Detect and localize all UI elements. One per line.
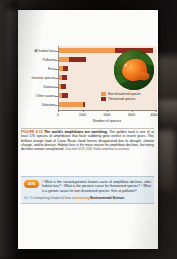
data-badge-label: DATA — [28, 183, 36, 186]
legend-swatch-non-threatened — [101, 92, 106, 96]
bar-segment-threatened — [69, 57, 86, 62]
question-bullet-icon: • — [141, 184, 142, 188]
x-tick-0 — [58, 110, 59, 112]
x-tick-3000 — [132, 110, 133, 112]
golden-toad-photo — [114, 50, 154, 90]
category-label-invasive-species: Invasive species — [32, 74, 55, 82]
goto-lead-label: Go To — [24, 196, 33, 200]
goto-text: Interpreting Graphs & Data on — [34, 196, 75, 200]
chart-plot-area: Non-threatened species Threatened specie… — [58, 46, 157, 110]
category-label-other-causes: Other causes — [36, 92, 55, 100]
question-row: DATA • What is the second-greatest known… — [24, 180, 151, 193]
x-tick-label-4000: 4000 — [150, 113, 157, 117]
bar-fires — [59, 66, 68, 71]
question-bullet-icon: • — [42, 180, 43, 184]
x-tick-2000 — [107, 110, 108, 112]
category-label-fires: Fires — [48, 65, 55, 73]
data-question-box: DATA • What is the second-greatest known… — [21, 176, 154, 204]
x-tick-1000 — [83, 110, 84, 112]
bar-segment-non-threatened — [59, 57, 69, 62]
textbook-page: All habitat loss Pollution Fires Invasiv… — [18, 10, 158, 249]
chart-x-axis-title: Number of species — [58, 119, 156, 123]
legend-item-threatened: Threatened species — [101, 97, 153, 101]
x-tick-label-0: 0 — [57, 113, 59, 117]
x-tick-label-3000: 3000 — [128, 113, 135, 117]
chart-category-labels: All habitat loss Pollution Fires Invasiv… — [20, 46, 58, 110]
chart-legend: Non-threatened species Threatened specie… — [101, 92, 153, 102]
goto-link[interactable]: Learning — [76, 196, 89, 200]
figure-caption: FIGURE 8.15 The world's amphibians are v… — [21, 128, 154, 153]
question-2: What is the greatest cause for threatene… — [64, 184, 140, 188]
legend-label-non-threatened: Non-threatened species — [108, 92, 141, 96]
legend-swatch-threatened — [101, 97, 106, 101]
x-tick-4000 — [156, 110, 157, 112]
category-label-disease: Disease — [43, 83, 55, 91]
category-label-unknown: Unknown — [42, 101, 55, 109]
bar-disease — [59, 84, 66, 89]
bar-invasive-species — [59, 75, 67, 80]
question-text: • What is the second-greatest known caus… — [42, 180, 151, 193]
figure-source: Data from IUCN, 2008. Global amphibian a… — [65, 148, 130, 151]
bar-pollution — [59, 57, 86, 62]
bar-segment-threatened — [83, 102, 86, 107]
bar-other-causes — [59, 93, 68, 98]
category-label-all-habitat-loss: All habitat loss — [34, 47, 55, 55]
x-tick-label-1000: 1000 — [79, 113, 86, 117]
bar-unknown — [59, 102, 85, 107]
legend-label-threatened: Threatened species — [108, 97, 135, 101]
data-badge-icon: DATA — [24, 180, 39, 188]
question-bullet-icon: • — [62, 184, 63, 188]
bar-segment-non-threatened — [59, 48, 115, 53]
legend-item-non-threatened: Non-threatened species — [101, 92, 153, 96]
bar-segment-threatened — [62, 75, 67, 80]
category-label-pollution: Pollution — [43, 56, 55, 64]
bar-segment-threatened — [63, 66, 68, 71]
bar-segment-threatened — [62, 93, 68, 98]
photographed-textbook-page-scene: All habitat loss Pollution Fires Invasiv… — [0, 0, 177, 259]
x-tick-label-2000: 2000 — [103, 113, 110, 117]
chart-area: All habitat loss Pollution Fires Invasiv… — [20, 46, 156, 134]
toad-eye — [124, 63, 130, 68]
caption-divider — [21, 128, 154, 129]
caption-text: FIGURE 8.15 The world's amphibians are v… — [21, 130, 154, 152]
goto-brand: Environmental Science — [90, 196, 124, 200]
figure-chart: All habitat loss Pollution Fires Invasiv… — [20, 46, 156, 134]
bar-segment-non-threatened — [59, 102, 83, 107]
goto-line[interactable]: Go To Interpreting Graphs & Data on Lear… — [24, 196, 151, 200]
bar-segment-threatened — [61, 84, 66, 89]
